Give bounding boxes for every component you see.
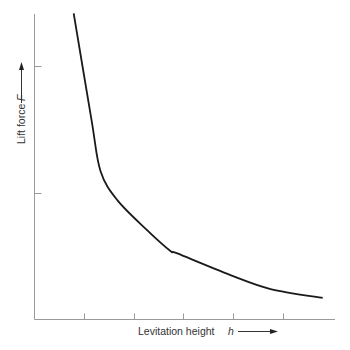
x-axis-label: Levitation height [138, 325, 215, 337]
y-ticks [35, 67, 42, 194]
x-axis-symbol: h [228, 325, 234, 337]
y-axis-label: Lift force [15, 104, 27, 144]
chart: Levitation height h Lift force F [0, 0, 350, 350]
x-axis-arrow-icon [270, 329, 278, 334]
y-axis-arrow-icon [19, 62, 24, 70]
x-axis-label-group: Levitation height h [138, 325, 278, 337]
series-line-lift-force [74, 13, 323, 297]
x-ticks [85, 314, 284, 320]
